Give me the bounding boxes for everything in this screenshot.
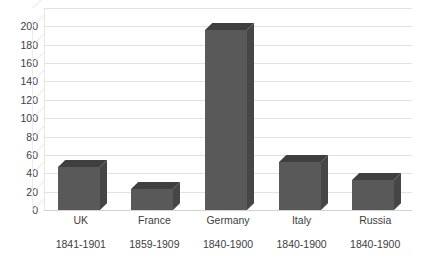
- x-axis-category-russia: Russia1840-1900: [338, 214, 412, 251]
- bar-side-face: [100, 160, 107, 210]
- bar-front-face: [205, 30, 247, 210]
- category-date-range: 1841-1901: [44, 238, 118, 251]
- bar-top-face: [131, 182, 180, 189]
- category-date-range: 1859-1909: [118, 238, 192, 251]
- bar-front-face: [131, 189, 173, 210]
- bar-top-face: [279, 155, 328, 162]
- bar-germany[interactable]: [205, 30, 247, 210]
- category-date-range: 1840-1900: [191, 238, 265, 251]
- x-axis-category-uk: UK1841-1901: [44, 214, 118, 251]
- bar-side-face: [247, 23, 254, 210]
- category-name: France: [118, 214, 192, 227]
- bar-italy[interactable]: [279, 162, 321, 210]
- bar-france[interactable]: [131, 189, 173, 210]
- bar-slot[interactable]: [352, 8, 394, 210]
- bar-top-face: [58, 160, 107, 167]
- x-axis-category-italy: Italy1840-1900: [265, 214, 339, 251]
- category-date-range: 1840-1900: [265, 238, 339, 251]
- bar-chart: 020406080100120140160180200 UK1841-1901F…: [0, 0, 423, 265]
- category-name: Italy: [265, 214, 339, 227]
- bar-slot[interactable]: [131, 8, 173, 210]
- x-axis-labels: UK1841-1901France1859-1909Germany1840-19…: [44, 214, 412, 262]
- bar-uk[interactable]: [58, 167, 100, 210]
- bar-slot[interactable]: [58, 8, 100, 210]
- bar-top-face: [205, 23, 254, 30]
- bar-front-face: [58, 167, 100, 210]
- x-axis-category-france: France1859-1909: [118, 214, 192, 251]
- bar-top-face: [352, 173, 401, 180]
- bar-russia[interactable]: [352, 180, 394, 210]
- bar-slot[interactable]: [205, 8, 247, 210]
- category-name: Russia: [338, 214, 412, 227]
- category-date-range: 1840-1900: [338, 238, 412, 251]
- bar-side-face: [321, 156, 328, 210]
- bar-slot[interactable]: [279, 8, 321, 210]
- category-name: Germany: [191, 214, 265, 227]
- bar-front-face: [352, 180, 394, 210]
- category-name: UK: [44, 214, 118, 227]
- bar-front-face: [279, 162, 321, 210]
- bar-series: [44, 8, 412, 210]
- x-axis-category-germany: Germany1840-1900: [191, 214, 265, 251]
